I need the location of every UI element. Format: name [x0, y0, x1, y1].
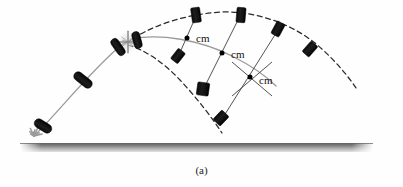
- body-shape: [191, 7, 202, 23]
- figure-container: cmcmcm (a): [0, 0, 403, 187]
- cm-marker-2-label: cm: [231, 48, 245, 60]
- cm-marker-3-label: cm: [259, 74, 273, 86]
- cm-marker-3-dot: [248, 75, 253, 80]
- fragment-upper-2: [236, 7, 246, 23]
- fragment-lower-2: [196, 82, 210, 97]
- body-shape: [196, 82, 210, 97]
- cm-marker-1-dot: [185, 36, 190, 41]
- body-shape: [72, 70, 94, 90]
- rocket-ascending-low: [72, 70, 94, 90]
- fragment-upper-3: [271, 21, 286, 38]
- bodies-group: [33, 7, 318, 135]
- body-shape: [236, 7, 246, 23]
- body-shape: [170, 48, 185, 64]
- center-of-mass-trajectory: [131, 37, 276, 86]
- ground-edge-fade: [20, 143, 373, 152]
- projectile-diagram: cmcmcm (a): [0, 0, 403, 187]
- body-shape: [271, 21, 286, 38]
- figure-caption: (a): [195, 164, 208, 177]
- cm-marker-2-dot: [220, 51, 225, 56]
- ground-group: [20, 143, 373, 152]
- connector-lines-group: [178, 16, 278, 119]
- fragment-upper-1: [191, 7, 202, 23]
- trajectories-group: [36, 12, 356, 134]
- fragment-lower-1: [170, 48, 185, 64]
- cm-marker-1-label: cm: [196, 32, 210, 44]
